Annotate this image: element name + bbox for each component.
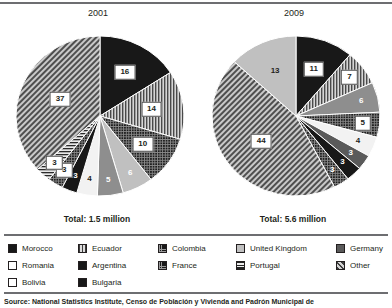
legend-swatch-icon: [336, 244, 345, 253]
legend-item[interactable]: Other: [336, 261, 386, 270]
legend-swatch-icon: [8, 278, 17, 287]
legend-row: RomaniaArgentinaFrancePortugalOther: [8, 257, 386, 274]
chart-title-2001: 2001: [18, 8, 178, 18]
legend-row: MoroccoEcuadorColombiaUnited KingdomGerm…: [8, 240, 386, 257]
legend-row: BoliviaBulgaria: [8, 274, 386, 291]
slice-value-label: 3: [73, 172, 77, 180]
slice-value-label: 5: [106, 176, 110, 184]
slice-value-label: 4: [87, 175, 91, 183]
slice-value-label: 14: [141, 102, 162, 117]
legend: MoroccoEcuadorColombiaUnited KingdomGerm…: [8, 240, 386, 291]
slice-value-label: 11: [304, 62, 324, 77]
legend-swatch-icon: [158, 244, 167, 253]
figure-container: 2001 Total: 1.5 million 16141065433337 2…: [0, 0, 392, 308]
slice-value-label: 5: [355, 116, 371, 131]
legend-item[interactable]: Germany: [336, 244, 386, 253]
legend-item[interactable]: Morocco: [8, 244, 78, 253]
legend-label: Argentina: [92, 261, 126, 270]
slice-value-label: 10: [132, 137, 153, 152]
top-divider: [0, 2, 392, 4]
legend-label: Germany: [350, 244, 383, 253]
pie-chart-2001: [14, 22, 186, 212]
legend-swatch-icon: [78, 261, 87, 270]
legend-item[interactable]: Portugal: [236, 261, 336, 270]
slice-value-label: 7: [341, 70, 357, 85]
slice-value-label: 37: [50, 92, 71, 107]
legend-item[interactable]: Colombia: [158, 244, 236, 253]
legend-label: United Kingdom: [250, 244, 307, 253]
source-note: Source: National Statistics Institute, C…: [4, 297, 390, 308]
slice-value-label: 3: [340, 158, 344, 166]
slice-value-label: 3: [330, 166, 334, 174]
slice-value-label: 13: [271, 67, 280, 75]
legend-item[interactable]: France: [158, 261, 236, 270]
legend-label: Ecuador: [92, 244, 122, 253]
legend-label: Other: [350, 261, 370, 270]
slice-value-label: 6: [128, 169, 132, 177]
slice-value-label: 44: [251, 134, 272, 149]
legend-label: Morocco: [22, 244, 53, 253]
legend-top-divider: [4, 234, 388, 236]
legend-swatch-icon: [78, 244, 87, 253]
slice-value-label: 16: [114, 65, 135, 80]
chart-title-2009: 2009: [214, 8, 374, 18]
slice-value-label: 6: [359, 97, 363, 105]
legend-swatch-icon: [8, 261, 17, 270]
legend-item[interactable]: Ecuador: [78, 244, 158, 253]
legend-bottom-divider: [4, 292, 388, 294]
legend-item[interactable]: Bolivia: [8, 278, 78, 287]
legend-label: France: [172, 261, 197, 270]
total-label-2009: Total: 5.6 million: [208, 214, 378, 224]
legend-swatch-icon: [336, 261, 345, 270]
legend-label: Portugal: [250, 261, 280, 270]
legend-item[interactable]: Romania: [8, 261, 78, 270]
slice-value-label: 4: [356, 137, 360, 145]
legend-item[interactable]: Argentina: [78, 261, 158, 270]
legend-label: Bolivia: [22, 278, 46, 287]
slice-value-label: 3: [46, 156, 62, 171]
legend-label: Romania: [22, 261, 54, 270]
legend-item[interactable]: United Kingdom: [236, 244, 336, 253]
legend-swatch-icon: [8, 244, 17, 253]
slice-value-label: 3: [349, 149, 353, 157]
legend-label: Bulgaria: [92, 278, 121, 287]
legend-swatch-icon: [78, 278, 87, 287]
legend-label: Colombia: [172, 244, 206, 253]
legend-swatch-icon: [236, 261, 245, 270]
legend-item[interactable]: Bulgaria: [78, 278, 158, 287]
legend-swatch-icon: [158, 261, 167, 270]
total-label-2001: Total: 1.5 million: [12, 214, 182, 224]
legend-swatch-icon: [236, 244, 245, 253]
